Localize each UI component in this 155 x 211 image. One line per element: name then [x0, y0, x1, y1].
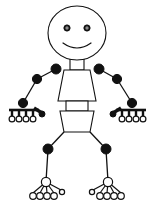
- right-ankle-joint: [103, 177, 112, 186]
- right-toe-4: [97, 193, 104, 200]
- right-finger-2-tip: [126, 116, 132, 122]
- head: [48, 6, 106, 60]
- hips-trapezoid: [60, 111, 94, 132]
- right-shoulder-joint: [94, 64, 104, 74]
- left-toe-2: [37, 193, 44, 200]
- left-eye-iris: [65, 26, 68, 29]
- head-group: [48, 6, 106, 60]
- right-knee-joint: [101, 144, 111, 154]
- right-thumb-tip: [110, 111, 116, 117]
- left-toe-1: [30, 193, 37, 200]
- right-toe-1: [118, 193, 125, 200]
- torso-group: [58, 59, 96, 132]
- chest-trapezoid: [58, 70, 96, 101]
- left-toe-4: [51, 193, 58, 200]
- left-shoulder-joint: [51, 64, 61, 74]
- left-wrist-joint: [18, 98, 27, 107]
- right-wrist-joint: [127, 98, 136, 107]
- right-elbow-joint: [112, 74, 121, 83]
- left-thumb-tip: [39, 111, 45, 117]
- left-elbow-joint: [32, 74, 41, 83]
- left-finger-3-tip: [23, 116, 29, 122]
- left-finger-1-tip: [9, 116, 15, 122]
- left-finger-4-tip: [30, 116, 36, 122]
- neck: [70, 59, 84, 70]
- left-finger-2-tip: [16, 116, 22, 122]
- right-toe-2: [111, 193, 118, 200]
- right-toe-5-small: [89, 189, 94, 194]
- left-toe-5-small: [59, 189, 64, 194]
- stick-figure-diagram: [0, 0, 155, 211]
- right-toe-3: [104, 193, 111, 200]
- left-ankle-joint: [41, 177, 50, 186]
- left-knee-joint: [43, 144, 53, 154]
- right-finger-1-tip: [119, 116, 125, 122]
- waist: [66, 101, 88, 111]
- right-finger-4-tip: [140, 116, 146, 122]
- left-toe-3: [44, 193, 51, 200]
- right-eye-iris: [85, 26, 88, 29]
- right-finger-3-tip: [133, 116, 139, 122]
- figure-svg: [0, 0, 155, 211]
